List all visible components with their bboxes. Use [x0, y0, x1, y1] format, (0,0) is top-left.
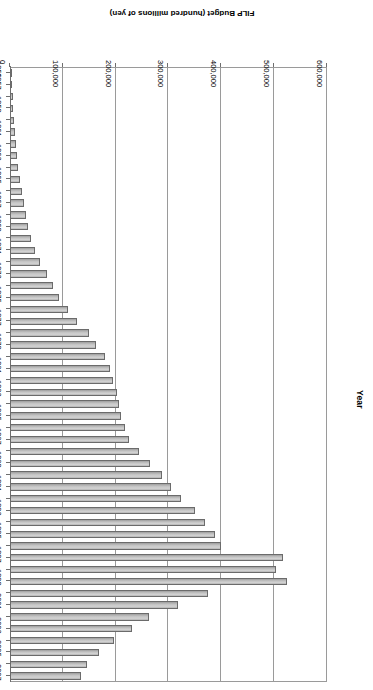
bar-row[interactable] [10, 389, 327, 396]
bar-row[interactable] [10, 625, 327, 632]
bar[interactable] [10, 176, 20, 183]
bar-row[interactable] [10, 661, 327, 668]
bar-row[interactable] [10, 672, 327, 679]
bar[interactable] [10, 235, 31, 242]
bar[interactable] [10, 164, 19, 171]
bar-row[interactable] [10, 424, 327, 431]
bar[interactable] [10, 471, 162, 478]
bar-row[interactable] [10, 329, 327, 336]
bar-row[interactable] [10, 105, 327, 112]
bar-row[interactable] [10, 507, 327, 514]
bar-row[interactable] [10, 483, 327, 490]
bar-row[interactable] [10, 93, 327, 100]
bar[interactable] [10, 306, 68, 313]
bar[interactable] [10, 81, 12, 88]
bar[interactable] [10, 294, 59, 301]
bar-row[interactable] [10, 128, 327, 135]
bar[interactable] [10, 188, 22, 195]
bar-row[interactable] [10, 270, 327, 277]
bar-row[interactable] [10, 649, 327, 656]
bar[interactable] [10, 649, 99, 656]
bar[interactable] [10, 270, 47, 277]
bar-row[interactable] [10, 211, 327, 218]
bar[interactable] [10, 448, 139, 455]
bar-row[interactable] [10, 601, 327, 608]
bar-row[interactable] [10, 519, 327, 526]
bar[interactable] [10, 436, 129, 443]
bar[interactable] [10, 365, 110, 372]
bar-row[interactable] [10, 318, 327, 325]
bar[interactable] [10, 566, 276, 573]
bar-row[interactable] [10, 152, 327, 159]
bar[interactable] [10, 601, 178, 608]
bar[interactable] [10, 400, 119, 407]
bar[interactable] [10, 578, 287, 585]
bar[interactable] [10, 199, 24, 206]
bar-row[interactable] [10, 400, 327, 407]
bar-row[interactable] [10, 471, 327, 478]
bar-row[interactable] [10, 258, 327, 265]
bar[interactable] [10, 318, 77, 325]
bar-row[interactable] [10, 495, 327, 502]
bar-row[interactable] [10, 448, 327, 455]
bar-row[interactable] [10, 117, 327, 124]
bar[interactable] [10, 93, 13, 100]
bar-row[interactable] [10, 294, 327, 301]
bar[interactable] [10, 211, 26, 218]
bar-row[interactable] [10, 460, 327, 467]
bar-row[interactable] [10, 554, 327, 561]
bar-row[interactable] [10, 140, 327, 147]
bar[interactable] [10, 483, 171, 490]
bar-row[interactable] [10, 247, 327, 254]
bar[interactable] [10, 258, 40, 265]
bar-row[interactable] [10, 412, 327, 419]
bar-row[interactable] [10, 199, 327, 206]
bar[interactable] [10, 661, 87, 668]
bar[interactable] [10, 341, 96, 348]
bar[interactable] [10, 389, 117, 396]
bar-row[interactable] [10, 637, 327, 644]
bar[interactable] [10, 282, 53, 289]
bar[interactable] [10, 69, 12, 76]
bar[interactable] [10, 128, 15, 135]
bar[interactable] [10, 377, 114, 384]
bar[interactable] [10, 117, 14, 124]
bar[interactable] [10, 672, 81, 679]
bar[interactable] [10, 329, 89, 336]
bar[interactable] [10, 590, 208, 597]
bar[interactable] [10, 424, 125, 431]
bar[interactable] [10, 105, 13, 112]
bar[interactable] [10, 542, 221, 549]
bar[interactable] [10, 637, 114, 644]
bar-row[interactable] [10, 81, 327, 88]
bar-row[interactable] [10, 176, 327, 183]
bar-row[interactable] [10, 69, 327, 76]
bar-row[interactable] [10, 188, 327, 195]
bar[interactable] [10, 507, 195, 514]
bar[interactable] [10, 495, 181, 502]
bar-row[interactable] [10, 590, 327, 597]
bar[interactable] [10, 152, 17, 159]
bar[interactable] [10, 412, 121, 419]
bar-row[interactable] [10, 164, 327, 171]
bar[interactable] [10, 460, 150, 467]
bar[interactable] [10, 625, 132, 632]
bar-row[interactable] [10, 282, 327, 289]
bar-row[interactable] [10, 341, 327, 348]
bar[interactable] [10, 223, 28, 230]
bar[interactable] [10, 519, 205, 526]
bar-row[interactable] [10, 235, 327, 242]
bar[interactable] [10, 140, 16, 147]
bar[interactable] [10, 247, 35, 254]
bar-row[interactable] [10, 377, 327, 384]
bar-row[interactable] [10, 353, 327, 360]
bar-row[interactable] [10, 613, 327, 620]
bar-row[interactable] [10, 531, 327, 538]
bar-row[interactable] [10, 365, 327, 372]
bar-row[interactable] [10, 542, 327, 549]
bar[interactable] [10, 554, 283, 561]
bar[interactable] [10, 613, 149, 620]
bar-row[interactable] [10, 566, 327, 573]
bar-row[interactable] [10, 223, 327, 230]
bar[interactable] [10, 353, 105, 360]
